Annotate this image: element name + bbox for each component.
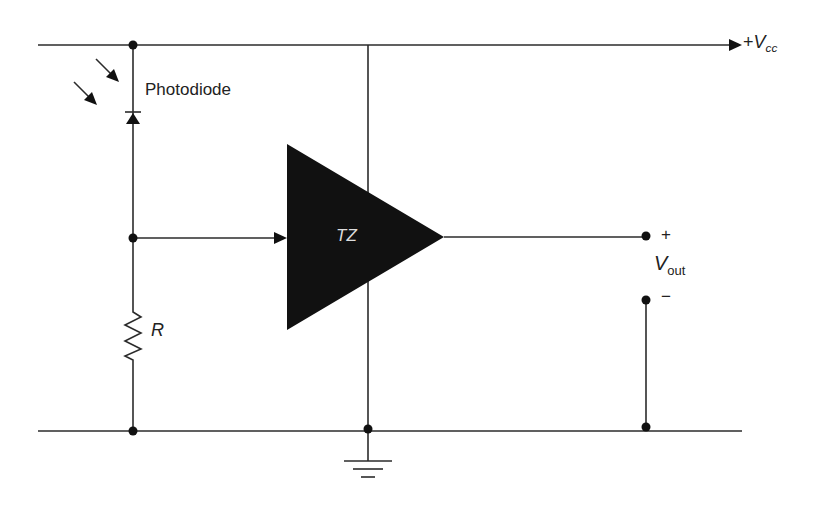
photodiode-label: Photodiode: [145, 80, 231, 100]
vout-sub: out: [667, 263, 685, 278]
vcc-arrowhead: [729, 39, 742, 51]
vout-plus-label: +: [661, 225, 671, 245]
circuit-diagram: [0, 0, 816, 505]
vout-label: Vout: [654, 252, 685, 278]
junction-dot: [642, 423, 651, 432]
vout-minus-label: −: [661, 287, 671, 307]
transimpedance-amplifier-icon: [287, 144, 444, 330]
photodiode-icon: [126, 113, 140, 124]
resistor-icon: [125, 300, 141, 362]
resistor-label: R: [151, 320, 164, 341]
vcc-sub: cc: [766, 41, 778, 54]
input-arrowhead: [274, 232, 287, 244]
vout-main: V: [654, 252, 667, 274]
junction-dot: [129, 41, 138, 50]
vcc-label: +Vcc: [743, 32, 777, 54]
vcc-main: V: [754, 32, 766, 52]
junction-dot: [129, 234, 138, 243]
junction-dot: [364, 425, 373, 434]
vout-minus-terminal: [642, 296, 651, 305]
junction-dot: [129, 427, 138, 436]
vcc-sign: +: [743, 32, 754, 52]
amplifier-label: TZ: [336, 226, 357, 246]
vout-plus-terminal: [642, 232, 651, 241]
